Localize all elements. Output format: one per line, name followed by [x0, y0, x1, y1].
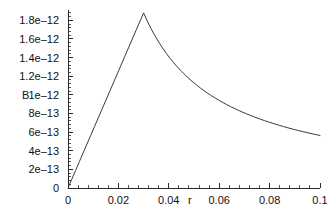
y-tick-label: 1.8e–12 [19, 14, 59, 26]
x-tick-label: 0.04 [158, 194, 179, 206]
y-axis-tick-labels: 02e–134e–136e–138e–131e–121.2e–121.4e–12… [19, 14, 59, 194]
plot-canvas: 02e–134e–136e–138e–131e–121.2e–121.4e–12… [0, 0, 336, 217]
x-axis-title: r [188, 194, 192, 206]
x-tick-label: 0.1 [312, 194, 327, 206]
y-axis-title: B [22, 89, 29, 101]
plot-figure: 02e–134e–136e–138e–131e–121.2e–121.4e–12… [0, 0, 336, 217]
y-tick-label: 1.6e–12 [19, 33, 59, 45]
y-tick-label: 1.4e–12 [19, 52, 59, 64]
x-tick-label: 0 [65, 194, 71, 206]
y-tick-label: 1e–12 [28, 89, 59, 101]
x-tick-label: 0.08 [259, 194, 280, 206]
x-axis-tick-labels: 00.020.040.060.080.1 [65, 194, 328, 206]
y-tick-label: 1.2e–12 [19, 70, 59, 82]
y-tick-label: 2e–13 [28, 163, 59, 175]
y-tick-label: 4e–13 [28, 145, 59, 157]
y-tick-label: 8e–13 [28, 107, 59, 119]
x-tick-label: 0.02 [108, 194, 129, 206]
x-tick-label: 0.06 [208, 194, 229, 206]
y-tick-label: 0 [53, 182, 59, 194]
data-series-line [68, 13, 320, 188]
y-tick-label: 6e–13 [28, 126, 59, 138]
